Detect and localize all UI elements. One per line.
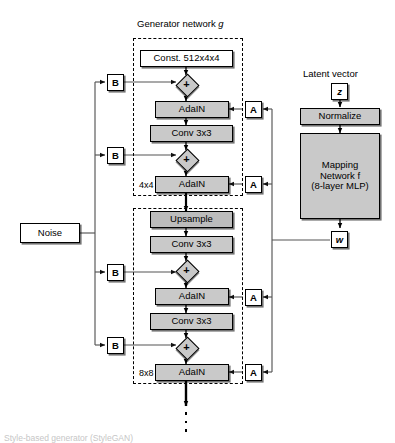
- normalize-block: Normalize: [300, 108, 380, 125]
- ellipsis-dot: [185, 429, 188, 432]
- style-vector-w: w: [331, 231, 348, 248]
- style-affine-a-3: A: [245, 289, 262, 306]
- adain-1: AdaIN: [155, 101, 229, 118]
- mapping-network-line-3: (8-layer MLP): [311, 181, 369, 192]
- ellipsis-dot: [185, 421, 188, 424]
- noise-add-1: +: [177, 75, 196, 94]
- figure-title-text: Generator network: [137, 18, 216, 29]
- ellipsis-dot: [185, 412, 188, 415]
- figure-title-symbol: g: [218, 18, 223, 29]
- noise-scale-b-3: B: [107, 264, 124, 281]
- noise-source: Noise: [20, 223, 80, 243]
- style-affine-a-2: A: [245, 176, 262, 193]
- style-affine-a-4: A: [245, 364, 262, 381]
- adain-2: AdaIN: [155, 176, 229, 193]
- plus-symbol: +: [177, 150, 196, 169]
- resolution-label-8x8: 8x8: [139, 368, 154, 378]
- upsample-block: Upsample: [150, 211, 233, 228]
- conv-1: Conv 3x3: [150, 125, 233, 142]
- noise-add-2: +: [177, 150, 196, 169]
- conv-3: Conv 3x3: [150, 313, 233, 330]
- mapping-network-block: Mapping Network f (8-layer MLP): [300, 133, 380, 219]
- diagram-canvas: Generator network g 4x4 8x8 Const. 512x4…: [0, 0, 395, 443]
- const-block: Const. 512x4x4: [140, 50, 233, 67]
- noise-add-4: +: [177, 338, 196, 357]
- adain-4: AdaIN: [155, 364, 229, 381]
- resolution-label-4x4: 4x4: [139, 180, 154, 190]
- adain-3: AdaIN: [155, 288, 229, 305]
- noise-scale-b-2: B: [107, 147, 124, 164]
- latent-vector-z: z: [331, 83, 348, 100]
- bottom-caption: Style-based generator (StyleGAN): [4, 433, 194, 443]
- style-affine-a-1: A: [245, 101, 262, 118]
- continuation-ellipsis: [185, 412, 188, 432]
- noise-scale-b-4: B: [107, 337, 124, 354]
- plus-symbol: +: [177, 75, 196, 94]
- noise-scale-b-1: B: [107, 74, 124, 91]
- noise-add-3: +: [177, 261, 196, 280]
- plus-symbol: +: [177, 338, 196, 357]
- figure-title: Generator network g: [137, 18, 224, 29]
- conv-2: Conv 3x3: [150, 236, 233, 253]
- plus-symbol: +: [177, 261, 196, 280]
- latent-vector-caption: Latent vector: [303, 68, 358, 79]
